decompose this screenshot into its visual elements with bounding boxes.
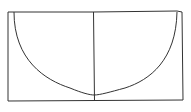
center-divider (94, 12, 95, 101)
outer-frame (8, 11, 183, 101)
bowl-curve (14, 12, 177, 95)
diagram-canvas (0, 0, 191, 112)
